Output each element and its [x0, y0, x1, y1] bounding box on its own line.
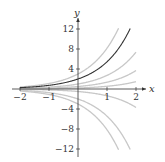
y-tick-label: −12: [55, 144, 74, 154]
x-tick-label: −1: [42, 92, 55, 102]
x-axis-arrow-icon: [142, 87, 146, 91]
x-axis-label: x: [149, 83, 155, 94]
y-tick-label: 12: [63, 24, 74, 34]
y-axis-label: y: [73, 7, 80, 18]
x-tick-label: 2: [133, 92, 139, 102]
y-tick-label: 4: [68, 64, 74, 74]
x-tick-label: 1: [104, 92, 110, 102]
exponential-family-chart: −2−112 1284−4−8−12 x y: [0, 0, 165, 162]
y-tick-label: 8: [68, 44, 74, 54]
y-axis-arrow-icon: [76, 18, 80, 22]
y-tick-label: −8: [61, 124, 75, 134]
y-tick-label: −4: [61, 104, 75, 114]
curve-3: [20, 28, 119, 87]
x-tick-label: −2: [13, 92, 26, 102]
